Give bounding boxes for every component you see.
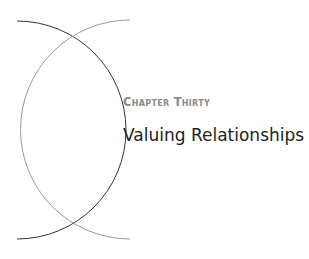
chapter-number: Chapter Thirty xyxy=(123,95,210,109)
dark-arc xyxy=(17,21,126,239)
light-arc xyxy=(21,20,131,239)
chapter-title: Valuing Relationships xyxy=(123,125,304,145)
